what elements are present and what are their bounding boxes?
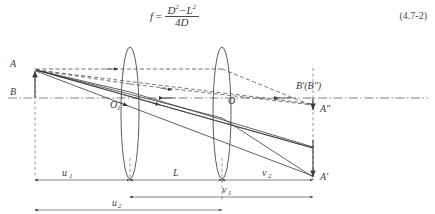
label-A: A: [9, 58, 17, 69]
lens-formula: f = D2−L2 4D: [150, 4, 199, 29]
formula-numerator: D2−L2: [165, 4, 200, 16]
dimension-v2-label: v: [262, 167, 267, 178]
ray-a-through-lens1-center-dup: [36, 70, 313, 148]
formula-lhs: f: [150, 10, 153, 22]
dimension-u1-subscript: 1: [69, 172, 73, 180]
label-B: B: [10, 86, 16, 97]
formula-equals: =: [155, 10, 162, 22]
dimension-u2-label: u: [112, 197, 117, 208]
label-A-prime: A': [319, 171, 329, 182]
ray-diagram-svg: A B O 1 O B'(B″) A″ A' u 1 L v 2 v 1 u 2: [0, 40, 435, 214]
ray-lens2-to-first-image: [222, 118, 313, 177]
numerator-exp-2: 2: [193, 3, 197, 11]
equation-number: (4.7-2): [400, 10, 428, 21]
label-O1-subscript: 1: [117, 104, 121, 112]
ray-diagram: A B O 1 O B'(B″) A″ A' u 1 L v 2 v 1 u 2: [0, 40, 435, 214]
dimension-L-label: L: [172, 167, 179, 178]
ray-lens1-to-image: [130, 92, 313, 147]
formula-denominator: 4D: [172, 17, 191, 29]
dimension-u1-label: u: [62, 167, 67, 178]
formula-fraction: D2−L2 4D: [165, 4, 200, 29]
label-O2: O: [228, 95, 235, 106]
dimension-v2-subscript: 2: [268, 172, 272, 180]
dimension-v1-subscript: 1: [228, 189, 232, 197]
ray-a-to-lens2: [36, 70, 222, 118]
dimension-u2-subscript: 2: [118, 202, 122, 210]
dimension-v1-label: v: [222, 184, 227, 195]
label-B-prime: B'(B″): [296, 80, 322, 92]
ray-direction-arrow-1: [150, 102, 160, 105]
equation-block: f = D2−L2 4D (4.7-2): [0, 0, 435, 40]
label-A-double-prime: A″: [319, 103, 331, 114]
